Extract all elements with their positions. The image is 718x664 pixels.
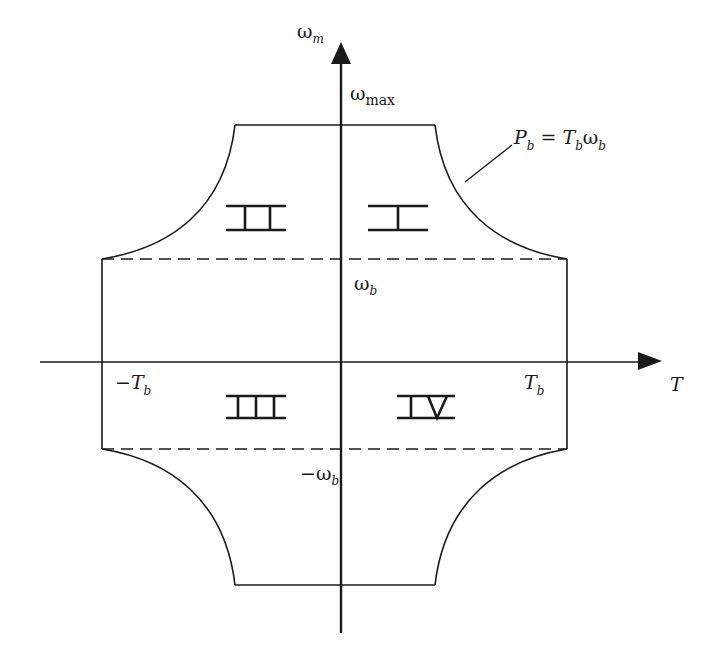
speed-axis-arrow-icon (331, 42, 351, 64)
speed-axis-label: ωm (297, 20, 324, 46)
quadrant-IV-label (397, 396, 455, 418)
constant-power-curve-q2 (102, 125, 235, 259)
quadrant-III-label (226, 396, 286, 418)
power-curve-leader-line (465, 145, 512, 182)
torque-speed-diagram: I II III IV ωm T ωmax ωb −ωb −Tb Tb Pb =… (0, 0, 718, 664)
torque-axis-label: T (670, 373, 684, 395)
neg-T-b-label: −Tb (115, 371, 151, 398)
power-equation-label: Pb = Tbωb (513, 126, 606, 153)
quadrant-I-label (368, 206, 428, 230)
omega-max-label: ωmax (350, 82, 395, 108)
neg-omega-b-label: −ωb (300, 462, 339, 488)
omega-b-label: ωb (354, 272, 377, 298)
T-b-label: Tb (524, 371, 544, 398)
constant-power-curve-q4 (435, 449, 567, 585)
quadrant-II-label (226, 206, 286, 230)
operating-envelope (102, 125, 567, 585)
torque-axis-arrow-icon (638, 352, 662, 370)
base-speed-lines (102, 259, 567, 449)
constant-power-curve-q3 (102, 449, 235, 585)
